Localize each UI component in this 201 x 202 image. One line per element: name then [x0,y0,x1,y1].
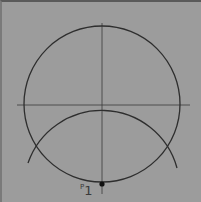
point-label-text: 1 [84,183,92,198]
geometry-diagram [2,2,201,202]
point-dot [99,181,104,186]
lower-arc [28,110,177,168]
point-label: P1 [80,183,93,198]
diagram-frame: P1 [0,0,201,202]
